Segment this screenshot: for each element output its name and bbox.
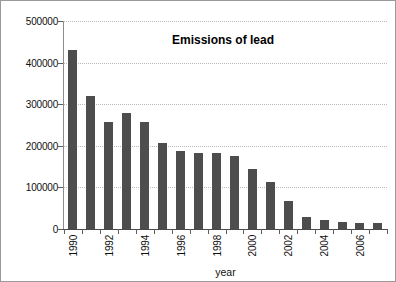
- bar-slot: [208, 21, 226, 229]
- y-tick-label: 500000: [26, 16, 58, 27]
- x-tick-label: 2002: [283, 235, 294, 256]
- bar[interactable]: [212, 153, 221, 229]
- x-axis-tick-labels: 199019921994199619982000200220042006: [64, 235, 387, 269]
- bar-slot: [261, 21, 279, 229]
- x-tick-mark: [369, 229, 370, 234]
- x-tick-label: 1998: [212, 235, 223, 256]
- y-axis-line: [63, 21, 64, 230]
- x-tick-mark: [208, 229, 209, 234]
- x-tick-mark: [297, 229, 298, 234]
- y-tick-mark: [58, 63, 63, 64]
- chart-title: Emissions of lead: [1, 33, 396, 47]
- bar-slot: [190, 21, 208, 229]
- bar-slot: [136, 21, 154, 229]
- bar-series: [64, 21, 387, 229]
- bar[interactable]: [338, 222, 347, 229]
- bar-slot: [82, 21, 100, 229]
- x-tick-mark: [279, 229, 280, 234]
- y-tick-mark: [58, 187, 63, 188]
- bar-slot: [118, 21, 136, 229]
- x-tick-label: 2006: [355, 235, 366, 256]
- x-axis-title: year: [64, 266, 387, 278]
- bar[interactable]: [68, 50, 77, 229]
- bar[interactable]: [230, 156, 239, 229]
- x-tick-mark: [136, 229, 137, 234]
- bar[interactable]: [266, 182, 275, 229]
- x-tick-mark: [154, 229, 155, 234]
- bar[interactable]: [320, 220, 329, 229]
- bar-slot: [279, 21, 297, 229]
- x-tick-mark: [351, 229, 352, 234]
- x-tick-label: 1990: [68, 235, 79, 256]
- bar[interactable]: [158, 143, 167, 229]
- bar-slot: [154, 21, 172, 229]
- x-tick-mark: [315, 229, 316, 234]
- x-tick-mark: [333, 229, 334, 234]
- bar-slot: [315, 21, 333, 229]
- x-tick-mark: [100, 229, 101, 234]
- x-tick-label: 2000: [247, 235, 258, 256]
- bar-slot: [333, 21, 351, 229]
- x-tick-mark: [118, 229, 119, 234]
- bar[interactable]: [248, 169, 257, 229]
- bar-slot: [100, 21, 118, 229]
- x-tick-mark: [243, 229, 244, 234]
- bar-slot: [225, 21, 243, 229]
- x-tick-label: 1994: [140, 235, 151, 256]
- bar[interactable]: [104, 122, 113, 229]
- y-axis-title: kgPb/year: [0, 105, 53, 152]
- bar[interactable]: [284, 201, 293, 229]
- bar[interactable]: [140, 122, 149, 229]
- x-tick-mark: [64, 229, 65, 234]
- bar-slot: [351, 21, 369, 229]
- y-tick-mark: [58, 21, 63, 22]
- bar[interactable]: [86, 96, 95, 229]
- bar[interactable]: [122, 113, 131, 229]
- x-tick-label: 2004: [319, 235, 330, 256]
- y-tick-mark: [58, 146, 63, 147]
- y-tick-label: 100000: [26, 182, 58, 193]
- x-tick-label: 1996: [176, 235, 187, 256]
- chart-figure: 0100000200000300000400000500000 19901992…: [0, 0, 396, 282]
- y-tick-label: 400000: [26, 57, 58, 68]
- bar-slot: [64, 21, 82, 229]
- x-tick-mark: [82, 229, 83, 234]
- x-tick-mark: [387, 229, 388, 234]
- x-tick-mark: [190, 229, 191, 234]
- bar-slot: [243, 21, 261, 229]
- bar[interactable]: [176, 151, 185, 229]
- y-tick-mark: [58, 104, 63, 105]
- y-tick-mark: [58, 229, 63, 230]
- x-tick-mark: [261, 229, 262, 234]
- bar[interactable]: [302, 217, 311, 229]
- bar[interactable]: [194, 153, 203, 229]
- x-tick-mark: [172, 229, 173, 234]
- bar-slot: [297, 21, 315, 229]
- bar-slot: [172, 21, 190, 229]
- bar-slot: [369, 21, 387, 229]
- x-tick-label: 1992: [104, 235, 115, 256]
- x-tick-mark: [226, 229, 227, 234]
